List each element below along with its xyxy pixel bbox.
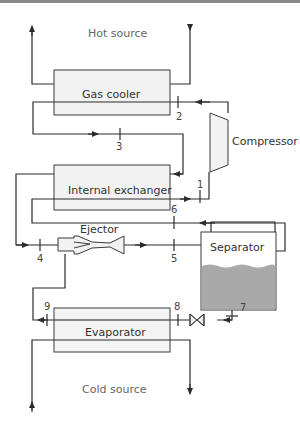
separator-label: Separator xyxy=(210,241,265,254)
state-point-6: 6 xyxy=(171,204,177,215)
gas-cooler-label: Gas cooler xyxy=(82,88,141,101)
separator-liquid xyxy=(202,265,275,310)
ejector xyxy=(50,236,124,254)
state-point-5: 5 xyxy=(171,253,177,264)
state-point-8: 8 xyxy=(174,301,180,312)
cold-source-label: Cold source xyxy=(82,383,147,396)
state-point-7: 7 xyxy=(240,302,246,313)
state-point-3: 3 xyxy=(116,141,122,152)
state-point-9: 9 xyxy=(44,301,50,312)
evaporator-label: Evaporator xyxy=(85,326,146,339)
compressor-shape xyxy=(210,113,228,172)
ejector-refrigeration-cycle-diagram: Hot source Gas cooler Compressor Interna… xyxy=(0,0,300,422)
compressor-label: Compressor xyxy=(232,135,298,148)
state-point-4: 4 xyxy=(37,253,43,264)
internal-exchanger-label: Internal exchanger xyxy=(68,184,172,197)
ejector-label: Ejector xyxy=(80,223,119,236)
hot-source-label: Hot source xyxy=(88,27,148,40)
state-point-2: 2 xyxy=(176,111,182,122)
state-point-1: 1 xyxy=(197,179,203,190)
